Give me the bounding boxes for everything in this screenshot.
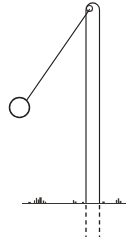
ground-tick — [45, 202, 46, 204]
ground-tick — [34, 200, 35, 203]
post-shape — [86, 3, 100, 204]
ground-tick — [82, 202, 84, 204]
ground-tick — [116, 200, 117, 204]
ground-tick — [73, 200, 74, 203]
ground-tick — [102, 202, 104, 204]
ground-tick — [38, 200, 40, 204]
pivot-circle — [87, 6, 93, 12]
ground-tick — [75, 202, 77, 204]
ground-tick — [118, 198, 119, 203]
ground-texture — [28, 197, 121, 203]
ground-tick — [43, 201, 44, 204]
pendulum-rod — [27, 10, 90, 101]
ground-tick — [39, 197, 41, 203]
ground-tick — [120, 201, 122, 204]
ground-tick — [28, 202, 31, 204]
ground-tick — [36, 198, 37, 204]
pendulum-bob — [10, 98, 30, 118]
pendulum-figure — [0, 0, 126, 243]
pendulum-diagram-svg — [0, 0, 126, 243]
